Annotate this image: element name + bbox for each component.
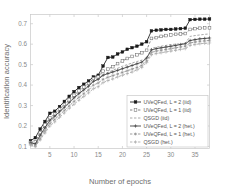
data-point-marker	[121, 74, 124, 77]
data-point-marker	[174, 49, 177, 52]
x-tick-label: 30	[167, 151, 175, 158]
data-point-marker	[102, 65, 105, 68]
x-tick-label: 35	[191, 151, 199, 158]
data-point-marker	[121, 67, 124, 70]
data-point-marker	[193, 43, 196, 46]
data-point-marker	[160, 35, 163, 38]
data-point-marker	[134, 132, 137, 135]
data-point-marker	[208, 18, 211, 21]
data-point-marker	[82, 86, 85, 89]
data-point-marker	[106, 72, 109, 75]
data-point-marker	[68, 95, 71, 98]
data-point-marker	[131, 46, 134, 49]
data-point-marker	[136, 53, 139, 56]
data-point-marker	[111, 56, 114, 59]
data-point-marker	[155, 36, 158, 39]
data-point-marker	[150, 30, 153, 33]
data-point-marker	[174, 33, 177, 36]
data-point-marker	[107, 68, 110, 71]
data-point-marker	[198, 27, 201, 30]
data-point-marker	[77, 99, 80, 102]
data-point-marker	[121, 71, 124, 74]
data-point-marker	[179, 48, 182, 51]
chart-figure: 51015202530350.10.20.30.40.50.60.7Number…	[0, 0, 226, 190]
data-point-marker	[121, 51, 124, 54]
y-tick-label: 0.2	[18, 122, 27, 129]
data-point-marker	[194, 18, 197, 21]
data-point-marker	[82, 92, 85, 95]
data-point-marker	[179, 33, 182, 36]
data-point-marker	[198, 18, 201, 21]
data-point-marker	[169, 34, 172, 37]
data-point-marker	[140, 51, 143, 54]
data-point-marker	[106, 76, 109, 79]
data-point-marker	[194, 27, 197, 30]
data-point-marker	[116, 69, 119, 72]
data-point-marker	[145, 40, 148, 43]
data-point-marker	[130, 68, 133, 71]
x-tick-label: 25	[143, 151, 151, 158]
data-point-marker	[198, 42, 201, 45]
data-point-marker	[174, 28, 177, 31]
data-point-marker	[145, 49, 148, 52]
legend-label: UVeQFed, L = 1 (iid)	[144, 107, 192, 113]
data-point-marker	[72, 100, 75, 103]
data-point-marker	[165, 34, 168, 37]
y-tick-label: 0.1	[18, 143, 27, 150]
legend-label: QSGD (het.)	[144, 139, 173, 145]
data-point-marker	[160, 28, 163, 31]
data-point-marker	[169, 49, 172, 52]
data-point-marker	[111, 74, 114, 77]
data-point-marker	[101, 78, 104, 81]
data-point-marker	[135, 68, 138, 71]
x-tick-label: 10	[71, 151, 79, 158]
data-point-marker	[134, 109, 137, 112]
data-point-marker	[184, 32, 187, 35]
data-point-marker	[203, 26, 206, 29]
y-axis-title: Identification accuracy	[2, 44, 11, 119]
y-tick-label: 0.5	[18, 61, 27, 68]
data-point-marker	[63, 103, 66, 106]
data-point-marker	[116, 72, 119, 75]
legend-label: QSGD (iid)	[144, 115, 170, 121]
y-tick-label: 0.6	[18, 40, 27, 47]
x-tick-label: 5	[48, 151, 52, 158]
data-point-marker	[116, 62, 119, 65]
data-point-marker	[82, 83, 85, 86]
data-point-marker	[106, 79, 109, 82]
data-point-marker	[116, 75, 119, 78]
data-point-marker	[92, 77, 95, 80]
data-point-marker	[68, 98, 71, 101]
data-point-marker	[189, 18, 192, 21]
data-point-marker	[165, 28, 168, 31]
data-point-marker	[126, 72, 129, 75]
data-point-marker	[111, 65, 114, 68]
data-point-marker	[92, 83, 95, 86]
data-point-marker	[136, 45, 139, 48]
data-point-marker	[155, 29, 158, 32]
data-point-marker	[131, 55, 134, 58]
data-point-marker	[135, 62, 138, 65]
data-point-marker	[116, 53, 119, 56]
legend-label: UVeQFed, L = 2 (het.)	[144, 123, 196, 129]
data-point-marker	[34, 136, 37, 139]
data-point-marker	[63, 100, 66, 103]
data-point-marker	[150, 37, 153, 40]
data-point-marker	[203, 42, 206, 45]
data-point-marker	[77, 96, 80, 99]
x-tick-label: 15	[95, 151, 103, 158]
data-point-marker	[97, 81, 100, 84]
data-point-marker	[130, 70, 133, 73]
data-point-marker	[121, 60, 124, 63]
data-point-marker	[102, 70, 105, 73]
data-point-marker	[53, 110, 56, 113]
data-point-marker	[111, 77, 114, 80]
data-point-marker	[39, 128, 42, 131]
data-point-marker	[164, 50, 167, 53]
x-tick-label: 20	[119, 151, 127, 158]
data-point-marker	[97, 85, 100, 88]
y-tick-label: 0.7	[18, 20, 27, 27]
data-point-marker	[179, 27, 182, 30]
line-chart: 51015202530350.10.20.30.40.50.60.7Number…	[0, 0, 226, 190]
data-point-marker	[44, 120, 47, 123]
